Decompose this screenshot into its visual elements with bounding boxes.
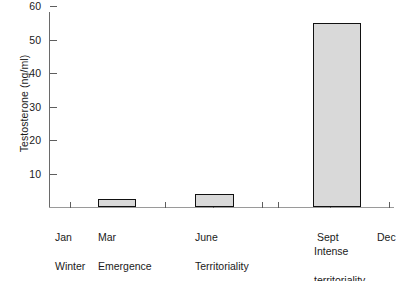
x-label-intense-2: territoriality [314, 273, 365, 281]
x-label-mar-note: Emergence [98, 259, 152, 274]
y-tick-label-60: 60 [1, 1, 41, 12]
y-axis-line [49, 12, 50, 208]
y-tick-label-10: 10 [1, 169, 41, 180]
x-label-june: June Territoriality [195, 215, 249, 281]
plot-area: 60 50 40 30 20 10 Jan Winter dormancy Ma [49, 12, 394, 208]
y-tick-label-40: 40 [1, 68, 41, 79]
x-label-intense-1: Intense [314, 244, 365, 259]
y-tick-mark-10 [50, 174, 57, 175]
y-tick-label-50: 50 [1, 35, 41, 46]
x-tick-jan [70, 202, 71, 208]
bar-oct [313, 23, 361, 207]
x-label-dec: Dec [377, 215, 396, 259]
x-label-june-month: June [195, 230, 249, 245]
x-tick-june [262, 202, 263, 208]
x-tick-oct [389, 202, 390, 208]
y-tick-label-30: 30 [1, 102, 41, 113]
bar-mar [98, 199, 136, 207]
x-tick-mar [165, 202, 166, 208]
y-tick-mark-20 [50, 140, 57, 141]
x-axis-line [49, 207, 394, 208]
x-label-mar-month: Mar [98, 230, 152, 245]
y-tick-mark-30 [50, 107, 57, 108]
y-tick-mark-60 [50, 6, 57, 7]
y-tick-label-20: 20 [1, 135, 41, 146]
y-tick-mark-40 [50, 73, 57, 74]
x-label-intense: Intense territoriality and sexual behavi… [314, 229, 365, 281]
y-tick-mark-50 [50, 40, 57, 41]
x-label-jan: Jan Winter dormancy [55, 215, 101, 281]
testosterone-bar-chart: Testosterone (ng/ml) 60 50 40 30 20 10 [0, 0, 402, 281]
x-label-jan-month: Jan [55, 230, 101, 245]
x-label-dec-month: Dec [377, 230, 396, 245]
x-label-jan-note-1: Winter [55, 259, 101, 274]
x-tick-aug [278, 202, 279, 208]
x-label-mar: Mar Emergence [98, 215, 152, 281]
bar-june [195, 194, 234, 207]
x-label-june-note: Territoriality [195, 259, 249, 274]
